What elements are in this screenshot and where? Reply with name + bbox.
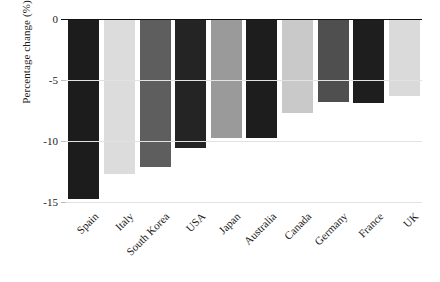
bar: [140, 19, 171, 167]
bar: [389, 19, 420, 96]
y-axis-tick-label: -5: [49, 74, 58, 86]
y-axis-tick-mark: [61, 141, 66, 142]
bar: [104, 19, 135, 174]
bar: [353, 19, 384, 103]
x-axis-tick-label-text: Australia: [241, 210, 278, 247]
x-axis-tick-label-text: Germany: [312, 210, 349, 247]
bar: [246, 19, 277, 138]
zero-axis-line: [66, 19, 422, 20]
bar-chart: Percentage change (%) 0-5-10-15 SpainIta…: [0, 0, 440, 282]
gridline: [66, 80, 422, 81]
x-axis-tick-label-text: USA: [183, 210, 207, 234]
y-axis-title: Percentage change (%): [20, 0, 32, 132]
bar-series: [66, 19, 422, 208]
x-axis-tick-label-text: Canada: [282, 210, 314, 242]
y-axis-tick-mark: [61, 19, 66, 20]
y-axis-tick-mark: [61, 80, 66, 81]
y-axis-tick-label: -10: [43, 135, 58, 147]
y-axis-tick-label: -15: [43, 196, 58, 208]
x-axis-tick-label-text: Italy: [113, 210, 136, 233]
y-axis-tick-label: 0: [53, 13, 59, 25]
plot-area: 0-5-10-15: [66, 19, 422, 208]
x-axis-tick-label-text: UK: [401, 210, 421, 230]
bar: [175, 19, 206, 148]
bar: [282, 19, 313, 113]
x-axis-tick-label-text: Spain: [74, 210, 100, 236]
bar: [68, 19, 99, 199]
gridline: [66, 141, 422, 142]
y-axis-tick-mark: [61, 202, 66, 203]
bar: [318, 19, 349, 102]
bar: [211, 19, 242, 138]
x-axis-tick-label-text: Japan: [216, 210, 242, 236]
x-axis-tick-label-text: France: [355, 210, 385, 240]
x-axis-tick-labels: SpainItalySouth KoreaUSAJapanAustraliaCa…: [66, 210, 422, 282]
